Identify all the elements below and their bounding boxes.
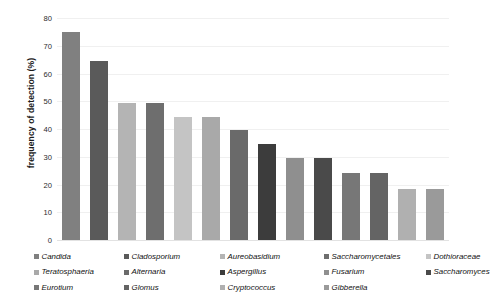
bar-saccharomycetales bbox=[146, 103, 164, 240]
legend-label: Alternaria bbox=[132, 268, 166, 276]
legend-item-cryptococcus[interactable]: Cryptococcus bbox=[220, 280, 275, 295]
y-axis-tick-label: 60 bbox=[26, 69, 52, 78]
legend-label: Aureobasidium bbox=[228, 253, 281, 261]
legend-swatch-icon bbox=[426, 254, 431, 259]
bar-aureobasidium bbox=[118, 103, 136, 240]
y-axis-tick-label: 30 bbox=[26, 152, 52, 161]
legend-swatch-icon bbox=[324, 270, 329, 275]
legend-label: Gibberella bbox=[332, 284, 368, 292]
bar-aspergillus bbox=[258, 144, 276, 240]
legend-item-saccharomyces[interactable]: Saccharomyces bbox=[426, 265, 490, 280]
legend-label: Candida bbox=[42, 253, 71, 261]
legend-swatch-icon bbox=[124, 285, 129, 290]
legend-label: Cladosporium bbox=[132, 253, 181, 261]
legend-item-candida[interactable]: Candida bbox=[34, 249, 71, 264]
legend-label: Teratosphaeria bbox=[42, 268, 94, 276]
y-axis-tick-label: 80 bbox=[26, 14, 52, 23]
legend-swatch-icon bbox=[324, 254, 329, 259]
legend-label: Fusarium bbox=[332, 268, 365, 276]
bar-dothioraceae bbox=[174, 117, 192, 240]
bar-candida bbox=[62, 32, 80, 240]
legend-label: Saccharomycetales bbox=[332, 253, 401, 261]
y-axis-tick-labels: 80706050403020100 bbox=[22, 0, 52, 248]
legend-item-glomus[interactable]: Glomus bbox=[124, 280, 159, 295]
legend-item-aspergillus[interactable]: Aspergillus bbox=[220, 265, 266, 280]
bar-cryptococcus bbox=[398, 189, 416, 240]
bar-saccharomyces bbox=[314, 158, 332, 240]
legend-label: Aspergillus bbox=[228, 268, 267, 276]
bar-series bbox=[57, 0, 449, 241]
bar-eurotium bbox=[342, 173, 360, 240]
legend-row: TeratosphaeriaAlternariaAspergillusFusar… bbox=[34, 265, 454, 280]
y-axis-tick-label: 70 bbox=[26, 41, 52, 50]
bar-fusarium bbox=[286, 158, 304, 240]
legend-swatch-icon bbox=[220, 270, 225, 275]
legend-swatch-icon bbox=[324, 285, 329, 290]
bar-glomus bbox=[370, 173, 388, 240]
legend-item-fusarium[interactable]: Fusarium bbox=[324, 265, 364, 280]
legend-item-saccharomycetales[interactable]: Saccharomycetales bbox=[324, 249, 400, 264]
y-axis-tick-label: 50 bbox=[26, 97, 52, 106]
legend-label: Saccharomyces bbox=[434, 268, 490, 276]
legend-item-gibberella[interactable]: Gibberella bbox=[324, 280, 367, 295]
legend-row: EurotiumGlomusCryptococcusGibberella bbox=[34, 280, 454, 295]
legend-label: Dothioraceae bbox=[434, 253, 481, 261]
legend-label: Cryptococcus bbox=[228, 284, 276, 292]
bar-teratosphaeria bbox=[202, 117, 220, 240]
y-axis-tick-label: 0 bbox=[26, 236, 52, 245]
legend-swatch-icon bbox=[124, 254, 129, 259]
bar-cladosporium bbox=[90, 61, 108, 240]
legend-swatch-icon bbox=[124, 270, 129, 275]
legend-item-aureobasidium[interactable]: Aureobasidium bbox=[220, 249, 280, 264]
legend-item-cladosporium[interactable]: Cladosporium bbox=[124, 249, 180, 264]
chart-legend: CandidaCladosporiumAureobasidiumSaccharo… bbox=[0, 249, 457, 308]
legend-item-eurotium[interactable]: Eurotium bbox=[34, 280, 73, 295]
legend-item-dothioraceae[interactable]: Dothioraceae bbox=[426, 249, 480, 264]
legend-swatch-icon bbox=[34, 270, 39, 275]
legend-swatch-icon bbox=[220, 285, 225, 290]
legend-swatch-icon bbox=[34, 254, 39, 259]
y-axis-tick-label: 40 bbox=[26, 125, 52, 134]
legend-label: Glomus bbox=[132, 284, 159, 292]
y-axis-tick-label: 20 bbox=[26, 180, 52, 189]
bar-alternaria bbox=[230, 130, 248, 240]
bar-gibberella bbox=[426, 189, 444, 240]
legend-swatch-icon bbox=[426, 270, 431, 275]
legend-swatch-icon bbox=[220, 254, 225, 259]
y-axis-tick-label: 10 bbox=[26, 208, 52, 217]
legend-label: Eurotium bbox=[42, 284, 74, 292]
legend-item-teratosphaeria[interactable]: Teratosphaeria bbox=[34, 265, 94, 280]
legend-row: CandidaCladosporiumAureobasidiumSaccharo… bbox=[34, 249, 454, 264]
legend-item-alternaria[interactable]: Alternaria bbox=[124, 265, 165, 280]
legend-swatch-icon bbox=[34, 285, 39, 290]
plot-area: frequency of detection (%) 8070605040302… bbox=[0, 0, 457, 248]
